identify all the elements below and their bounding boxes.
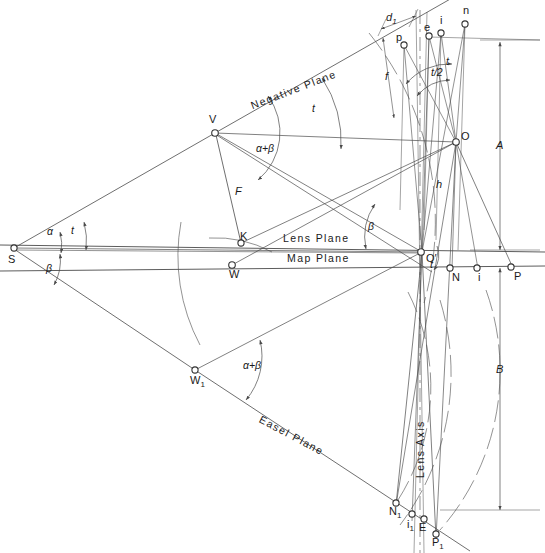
angle-label-alpha-at-S: α <box>47 225 53 237</box>
angle-label-tau-at-S: t <box>71 224 74 236</box>
point-label-i1: i1 <box>407 518 414 533</box>
negative-plane-line <box>14 0 496 248</box>
point-n <box>462 21 468 27</box>
point-label-W: W <box>229 268 239 280</box>
point-S <box>11 245 17 251</box>
angle-label-tau-top-right: t <box>446 55 449 67</box>
point-label-p: p <box>396 31 402 43</box>
angle-label-tau-at-V: t <box>312 102 315 114</box>
dimension-label-B: B <box>496 363 503 375</box>
point-i <box>438 30 444 36</box>
point-e <box>426 33 432 39</box>
point-label-P: P <box>514 270 521 282</box>
easel-plane-line <box>14 249 470 551</box>
point-label-E: E <box>419 521 426 533</box>
dimension-label-A: A <box>496 139 503 151</box>
plane-label-lens-axis: Lens Axis <box>414 420 426 478</box>
point-label-K: K <box>240 230 247 242</box>
map-plane-line <box>0 266 545 271</box>
dimension-label-F: F <box>235 185 242 197</box>
dimension-label-f: f <box>385 70 388 82</box>
angle-label-alpha-beta-at-W1: α+β <box>243 359 261 371</box>
angle-label-alpha-beta-at-V: α+β <box>256 142 274 154</box>
angle-label-tau-at-O-prime: t <box>430 258 433 270</box>
point-label-N: N <box>452 271 460 283</box>
dimension-label-h: h <box>436 178 442 190</box>
point-label-P1: P1 <box>432 536 444 551</box>
angle-label-beta-at-S: β <box>46 262 52 274</box>
plane-label-map-plane: Map Plane <box>287 252 350 264</box>
diagram-canvas: S V K W W1 O O′ p e i n N i P N1 i1 E P1… <box>0 0 545 553</box>
point-W1 <box>192 367 198 373</box>
dimension-A <box>470 40 540 250</box>
point-O-prime <box>418 249 425 256</box>
point-label-O: O <box>461 130 470 142</box>
plane-label-lens-plane: Lens Plane <box>283 232 350 244</box>
point-label-i: i <box>440 14 442 26</box>
point-label-i-right: i <box>478 271 480 283</box>
dimension-B <box>440 268 540 510</box>
dimension-label-d1: d1 <box>386 11 397 26</box>
point-label-V: V <box>209 113 216 125</box>
point-label-N1: N1 <box>389 505 401 520</box>
point-i1 <box>409 511 415 517</box>
angle-label-tau-half: t/2 <box>431 66 443 78</box>
point-label-n: n <box>463 4 469 16</box>
point-label-W1: W1 <box>190 374 205 389</box>
geometry-line-art <box>0 0 545 553</box>
angle-label-beta-at-O-prime: β <box>368 220 374 232</box>
point-label-e: e <box>424 21 430 33</box>
point-label-S: S <box>8 253 15 265</box>
point-V <box>212 130 219 137</box>
point-O <box>453 139 460 146</box>
